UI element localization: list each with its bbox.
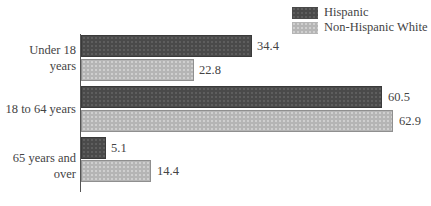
value-label: 22.8	[199, 59, 221, 81]
value-label: 60.5	[388, 86, 410, 108]
category-label-18-to-64: 18 to 64 years	[6, 101, 76, 117]
bar-hispanic-under-18	[81, 35, 252, 57]
category-label-under-18: Under 18 years	[29, 42, 76, 74]
bar-non-hispanic-white-65-and-over	[81, 160, 151, 182]
bar-hispanic-65-and-over	[81, 137, 106, 159]
category-label-65-and-over: 65 years and over	[13, 150, 76, 182]
value-label: 62.9	[399, 110, 421, 132]
bar-non-hispanic-white-18-to-64	[81, 110, 393, 132]
legend-label: Non-Hispanic White	[324, 20, 428, 35]
value-label: 5.1	[111, 137, 127, 159]
legend-swatch-non-hispanic-white	[292, 22, 318, 34]
category-label-line: over	[13, 166, 76, 182]
category-label-line: years	[29, 58, 76, 74]
legend-label: Hispanic	[324, 5, 368, 20]
value-label: 34.4	[257, 35, 279, 57]
value-label: 14.4	[157, 160, 179, 182]
category-label-line: Under 18	[29, 42, 76, 58]
bar-hispanic-18-to-64	[81, 86, 382, 108]
bar-non-hispanic-white-under-18	[81, 59, 194, 81]
legend-swatch-hispanic	[292, 7, 318, 19]
category-label-line: 65 years and	[13, 150, 76, 166]
